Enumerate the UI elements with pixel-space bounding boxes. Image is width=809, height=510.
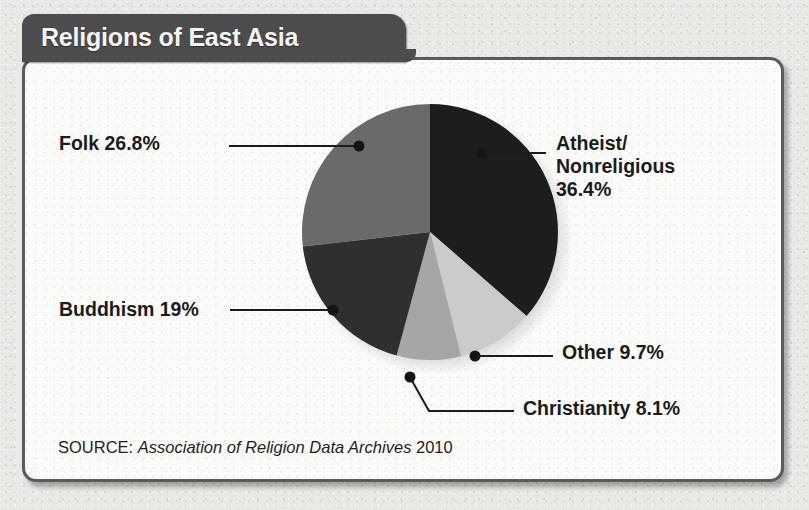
slice-label-other: Other 9.7% <box>562 341 664 364</box>
source-note: SOURCE: Association of Religion Data Arc… <box>58 438 453 457</box>
slice-label-folk: Folk 26.8% <box>59 132 160 155</box>
pie-slices <box>302 104 558 360</box>
page-title: Religions of East Asia <box>41 23 298 52</box>
pie-chart <box>296 82 586 382</box>
chart-panel: Folk 26.8% Buddhism 19% Atheist/ Nonreli… <box>22 57 784 482</box>
source-year: 2010 <box>416 438 453 456</box>
source-label: SOURCE: <box>58 438 133 456</box>
pie-chart-svg <box>296 82 586 382</box>
pie-slice-folk <box>302 104 430 246</box>
slice-label-atheist-line3: 36.4% <box>556 178 766 201</box>
slice-label-atheist-line1: Atheist/ <box>556 132 766 155</box>
slice-label-atheist: Atheist/ Nonreligious 36.4% <box>556 132 766 200</box>
slice-label-christianity: Christianity 8.1% <box>523 397 680 420</box>
slice-label-atheist-line2: Nonreligious <box>556 155 766 178</box>
source-name: Association of Religion Data Archives <box>138 438 412 456</box>
slice-label-buddhism: Buddhism 19% <box>59 298 199 321</box>
chart-title-tab: Religions of East Asia <box>22 14 406 62</box>
